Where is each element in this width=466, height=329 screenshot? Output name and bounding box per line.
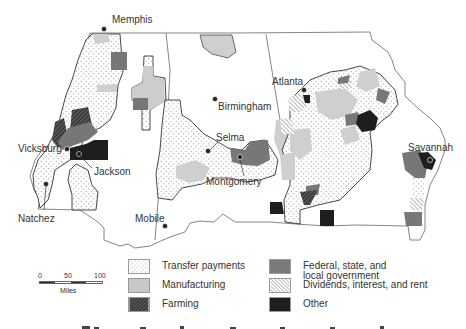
legend-item-dividends: Dividends, interest, and rent bbox=[269, 278, 428, 293]
city-label-montgomery: Montgomery bbox=[206, 177, 262, 187]
city-label-natchez: Natchez bbox=[18, 214, 55, 224]
city-label-memphis: Memphis bbox=[112, 15, 153, 25]
scale-bar: 0 50 100 Miles bbox=[36, 272, 106, 302]
city-label-jackson: Jackson bbox=[94, 167, 131, 177]
region-dividends-ga-3 bbox=[280, 118, 294, 134]
legend-item-transfer: Transfer payments bbox=[128, 259, 245, 274]
swatch-dividends-icon bbox=[269, 278, 291, 293]
legend-item-other: Other bbox=[269, 297, 328, 312]
scale-tick-50: 50 bbox=[64, 272, 72, 279]
swatch-government-icon bbox=[269, 259, 291, 274]
swatch-farming-icon bbox=[128, 297, 150, 312]
city-label-mobile: Mobile bbox=[135, 214, 164, 224]
scale-tick-100: 100 bbox=[94, 272, 106, 279]
swatch-manufacturing-icon bbox=[128, 278, 150, 293]
region-government-ms-1 bbox=[111, 52, 127, 70]
caption-cutoff bbox=[80, 324, 420, 329]
scale-unit: Miles bbox=[60, 287, 76, 294]
city-label-vicksburg: Vicksburg bbox=[18, 144, 62, 154]
region-dividends-coast bbox=[410, 198, 424, 211]
region-government-montgomery bbox=[230, 140, 270, 166]
region-government-al-1 bbox=[133, 98, 148, 110]
scale-bar-graphic bbox=[39, 281, 103, 284]
city-label-selma: Selma bbox=[216, 133, 244, 143]
swatch-other-icon bbox=[269, 297, 291, 312]
city-label-birmingham: Birmingham bbox=[218, 102, 271, 112]
region-manufacturing-ms-2 bbox=[97, 84, 117, 92]
city-label-savannah: Savannah bbox=[408, 143, 453, 153]
scale-tick-0: 0 bbox=[38, 272, 42, 279]
region-other-ga-south-2 bbox=[320, 210, 334, 226]
region-transfer-coast bbox=[412, 178, 424, 198]
region-manufacturing-ga-5 bbox=[280, 152, 295, 180]
legend-item-manufacturing: Manufacturing bbox=[128, 278, 225, 293]
city-label-atlanta: Atlanta bbox=[272, 77, 303, 87]
swatch-transfer-icon bbox=[128, 259, 150, 274]
region-manufacturing-al-ne bbox=[200, 35, 236, 58]
region-government-coast bbox=[404, 212, 422, 226]
legend-item-farming: Farming bbox=[128, 297, 199, 312]
region-other-ga-south-1 bbox=[270, 202, 284, 214]
